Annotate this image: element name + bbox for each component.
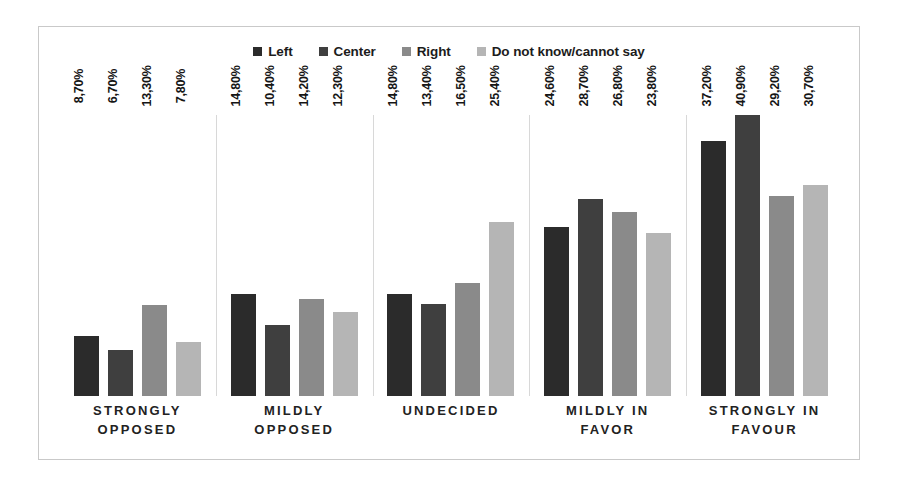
bar-value-label: 16,50% — [454, 65, 468, 106]
bar[interactable]: 26,80% — [612, 212, 637, 396]
chart-legend: LeftCenterRightDo not know/cannot say — [39, 44, 859, 59]
bar[interactable]: 7,80% — [176, 342, 201, 396]
bar[interactable]: 8,70% — [74, 336, 99, 396]
bar-value-label: 37,20% — [700, 65, 714, 106]
bar[interactable]: 13,30% — [142, 305, 167, 396]
bar[interactable]: 29,20% — [769, 196, 794, 397]
legend-item-label: Left — [268, 44, 292, 59]
bar-value-label: 26,80% — [611, 65, 625, 106]
bar-group: 14,80%13,40%16,50%25,40% — [373, 89, 530, 396]
bar-value-label: 24,60% — [543, 65, 557, 106]
category-label-line: UNDECIDED — [373, 401, 530, 420]
bar-column[interactable]: 14,20% — [299, 89, 324, 396]
legend-swatch-icon — [477, 47, 486, 56]
bar-value-label: 13,30% — [140, 65, 154, 106]
legend-item-label: Do not know/cannot say — [492, 44, 645, 59]
bar-value-label: 12,30% — [331, 65, 345, 106]
legend-item-label: Right — [417, 44, 451, 59]
legend-item[interactable]: Center — [319, 44, 376, 59]
bar[interactable]: 13,40% — [421, 304, 446, 396]
legend-swatch-icon — [402, 47, 411, 56]
bar-value-label: 25,40% — [488, 65, 502, 106]
bar[interactable]: 10,40% — [265, 325, 290, 396]
category-label-line: MILDLY — [216, 401, 373, 420]
bar-column[interactable]: 13,40% — [421, 89, 446, 396]
bar[interactable]: 40,90% — [735, 115, 760, 396]
bar-value-label: 7,80% — [174, 69, 188, 103]
bar-column[interactable]: 7,80% — [176, 89, 201, 396]
legend-swatch-icon — [253, 47, 262, 56]
bar-group: 37,20%40,90%29,20%30,70% — [686, 89, 843, 396]
category-label-line: OPPOSED — [216, 420, 373, 439]
category-axis: STRONGLYOPPOSEDMILDLYOPPOSEDUNDECIDEDMIL… — [59, 399, 843, 445]
bar-value-label: 10,40% — [263, 65, 277, 106]
category-label-line: FAVOR — [529, 420, 686, 439]
bar-group: 8,70%6,70%13,30%7,80% — [59, 89, 216, 396]
bar-column[interactable]: 26,80% — [612, 89, 637, 396]
category-label-line: STRONGLY IN — [686, 401, 843, 420]
legend-swatch-icon — [319, 47, 328, 56]
category-label: MILDLYOPPOSED — [216, 399, 373, 445]
bar-column[interactable]: 16,50% — [455, 89, 480, 396]
bar-column[interactable]: 37,20% — [701, 89, 726, 396]
bar[interactable]: 12,30% — [333, 312, 358, 396]
bar[interactable]: 25,40% — [489, 222, 514, 396]
category-label: STRONGLYOPPOSED — [59, 399, 216, 445]
bar-value-label: 6,70% — [106, 69, 120, 103]
bar-column[interactable]: 29,20% — [769, 89, 794, 396]
bar[interactable]: 16,50% — [455, 283, 480, 396]
category-label-line: FAVOUR — [686, 420, 843, 439]
bar-value-label: 29,20% — [768, 65, 782, 106]
bar-value-label: 23,80% — [645, 65, 659, 106]
bar-value-label: 8,70% — [72, 69, 86, 103]
legend-item-label: Center — [334, 44, 376, 59]
bar-column[interactable]: 23,80% — [646, 89, 671, 396]
bar-column[interactable]: 30,70% — [803, 89, 828, 396]
bar-column[interactable]: 40,90% — [735, 89, 760, 396]
plot-area: 8,70%6,70%13,30%7,80%14,80%10,40%14,20%1… — [59, 89, 843, 396]
category-label: MILDLY INFAVOR — [529, 399, 686, 445]
bar-column[interactable]: 6,70% — [108, 89, 133, 396]
bar-column[interactable]: 13,30% — [142, 89, 167, 396]
bar[interactable]: 30,70% — [803, 185, 828, 396]
bar[interactable]: 6,70% — [108, 350, 133, 396]
bar-column[interactable]: 24,60% — [544, 89, 569, 396]
category-label-line: OPPOSED — [59, 420, 216, 439]
bar-column[interactable]: 25,40% — [489, 89, 514, 396]
bar-value-label: 14,80% — [229, 65, 243, 106]
legend-item[interactable]: Left — [253, 44, 292, 59]
bar-value-label: 14,80% — [386, 65, 400, 106]
bar[interactable]: 14,20% — [299, 299, 324, 397]
bar-column[interactable]: 8,70% — [74, 89, 99, 396]
bar[interactable]: 37,20% — [701, 141, 726, 396]
bar-column[interactable]: 28,70% — [578, 89, 603, 396]
bar-value-label: 13,40% — [420, 65, 434, 106]
bar-value-label: 28,70% — [577, 65, 591, 106]
category-label-line: MILDLY IN — [529, 401, 686, 420]
bar-value-label: 30,70% — [802, 65, 816, 106]
bar[interactable]: 14,80% — [231, 294, 256, 396]
bar[interactable]: 23,80% — [646, 233, 671, 396]
category-label-line: STRONGLY — [59, 401, 216, 420]
bar-group: 24,60%28,70%26,80%23,80% — [529, 89, 686, 396]
legend-item[interactable]: Do not know/cannot say — [477, 44, 645, 59]
bar[interactable]: 28,70% — [578, 199, 603, 396]
legend-item[interactable]: Right — [402, 44, 451, 59]
bar-value-label: 40,90% — [734, 65, 748, 106]
chart-frame: LeftCenterRightDo not know/cannot say 8,… — [38, 26, 860, 460]
category-label: STRONGLY INFAVOUR — [686, 399, 843, 445]
category-label: UNDECIDED — [373, 399, 530, 445]
bar-column[interactable]: 12,30% — [333, 89, 358, 396]
bar-column[interactable]: 14,80% — [387, 89, 412, 396]
bar-column[interactable]: 10,40% — [265, 89, 290, 396]
bar[interactable]: 14,80% — [387, 294, 412, 396]
bar-value-label: 14,20% — [297, 65, 311, 106]
bar-column[interactable]: 14,80% — [231, 89, 256, 396]
bar-group: 14,80%10,40%14,20%12,30% — [216, 89, 373, 396]
bar[interactable]: 24,60% — [544, 227, 569, 396]
